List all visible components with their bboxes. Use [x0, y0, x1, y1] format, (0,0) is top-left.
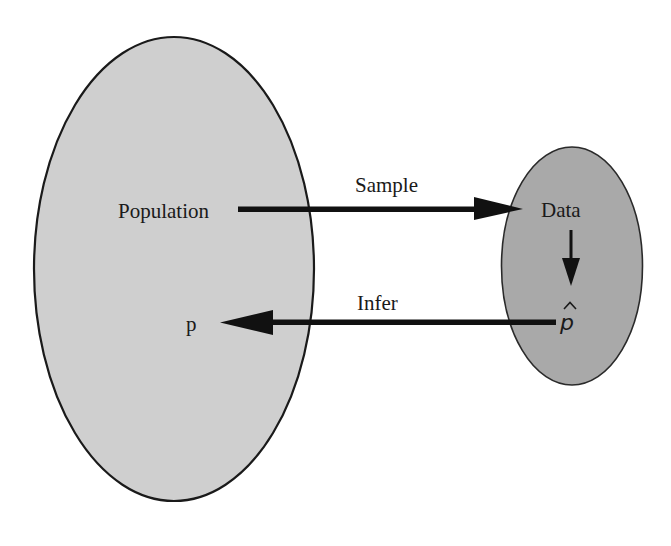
p-hat-label: p	[559, 310, 574, 335]
infer-label: Infer	[357, 291, 398, 315]
data-label: Data	[541, 198, 581, 222]
inference-diagram: Population Sample Data Infer p p	[0, 0, 671, 546]
sample-label: Sample	[355, 173, 418, 197]
parameter-p-label: p	[186, 312, 197, 336]
population-ellipse	[34, 37, 314, 501]
population-label: Population	[118, 199, 210, 223]
